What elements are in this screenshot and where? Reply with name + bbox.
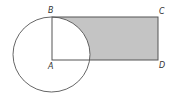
- geometry-diagram: [0, 0, 171, 96]
- label-b: B: [48, 7, 54, 15]
- shaded-region: [52, 17, 158, 60]
- label-a: A: [48, 63, 53, 71]
- label-c: C: [159, 8, 165, 16]
- label-d: D: [159, 62, 165, 70]
